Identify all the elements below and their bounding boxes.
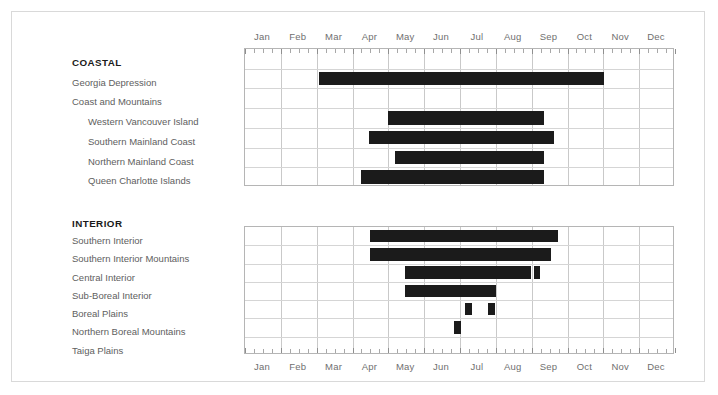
month-axis-top: JanFebMarAprMayJunJulAugSepOctNovDec bbox=[244, 31, 674, 45]
axis-tick bbox=[478, 49, 479, 53]
axis-tick bbox=[523, 49, 524, 53]
axis-tick bbox=[460, 49, 461, 54]
gantt-bar bbox=[319, 72, 604, 85]
axis-tick bbox=[281, 348, 282, 353]
month-label-bottom-dec: Dec bbox=[638, 361, 674, 372]
axis-tick bbox=[326, 49, 327, 53]
month-label-top-jul: Jul bbox=[459, 31, 495, 42]
axis-tick bbox=[442, 49, 443, 53]
axis-tick bbox=[263, 49, 264, 53]
grid-hline bbox=[245, 264, 673, 265]
axis-tick bbox=[612, 349, 613, 353]
interior-label-northern-boreal-mountains: Northern Boreal Mountains bbox=[72, 326, 186, 338]
axis-tick bbox=[361, 349, 362, 353]
axis-tick bbox=[424, 49, 425, 54]
month-label-top-aug: Aug bbox=[495, 31, 531, 42]
axis-tick bbox=[576, 49, 577, 53]
gantt-bar bbox=[405, 266, 531, 278]
axis-tick bbox=[657, 49, 658, 53]
interior-label-taiga-plains: Taiga Plains bbox=[72, 345, 123, 357]
axis-tick bbox=[532, 348, 533, 353]
month-label-bottom-jul: Jul bbox=[459, 361, 495, 372]
axis-tick bbox=[424, 348, 425, 353]
axis-tick bbox=[523, 349, 524, 353]
axis-tick bbox=[433, 349, 434, 353]
axis-tick bbox=[335, 49, 336, 53]
month-label-bottom-oct: Oct bbox=[567, 361, 603, 372]
gantt-bar bbox=[370, 248, 551, 260]
axis-tick bbox=[326, 349, 327, 353]
axis-tick bbox=[353, 49, 354, 54]
axis-tick bbox=[541, 49, 542, 53]
gantt-bar bbox=[361, 170, 544, 183]
gantt-bar bbox=[405, 285, 496, 297]
month-label-bottom-mar: Mar bbox=[316, 361, 352, 372]
month-label-bottom-may: May bbox=[387, 361, 423, 372]
axis-tick bbox=[630, 349, 631, 353]
month-label-top-mar: Mar bbox=[316, 31, 352, 42]
axis-tick bbox=[496, 348, 497, 353]
axis-tick bbox=[272, 349, 273, 353]
axis-tick bbox=[487, 49, 488, 53]
grid-hline bbox=[245, 148, 673, 149]
grid-hline bbox=[245, 88, 673, 89]
axis-tick bbox=[496, 49, 497, 54]
axis-tick bbox=[648, 349, 649, 353]
gantt-bar bbox=[388, 111, 544, 124]
axis-tick bbox=[361, 49, 362, 53]
gantt-bar bbox=[395, 151, 544, 164]
axis-tick bbox=[254, 349, 255, 353]
axis-tick bbox=[379, 49, 380, 53]
grid-hline bbox=[245, 108, 673, 109]
axis-tick bbox=[317, 348, 318, 353]
axis-tick bbox=[415, 49, 416, 53]
coastal-label-coastal: COASTAL bbox=[72, 57, 122, 69]
interior-label-sub-boreal-interior: Sub-Boreal Interior bbox=[72, 290, 152, 302]
gantt-bar bbox=[370, 230, 558, 242]
grid-hline bbox=[245, 128, 673, 129]
axis-tick bbox=[594, 49, 595, 53]
coastal-chart-grid bbox=[244, 48, 674, 186]
axis-tick bbox=[487, 349, 488, 353]
axis-tick bbox=[505, 349, 506, 353]
month-label-top-jun: Jun bbox=[423, 31, 459, 42]
month-label-top-oct: Oct bbox=[567, 31, 603, 42]
axis-tick bbox=[254, 49, 255, 53]
month-label-bottom-aug: Aug bbox=[495, 361, 531, 372]
grid-hline bbox=[245, 337, 673, 338]
axis-tick bbox=[657, 349, 658, 353]
grid-hline bbox=[245, 300, 673, 301]
axis-tick bbox=[451, 349, 452, 353]
gantt-bar bbox=[534, 266, 540, 278]
month-label-top-sep: Sep bbox=[531, 31, 567, 42]
axis-tick bbox=[585, 349, 586, 353]
axis-tick bbox=[290, 349, 291, 353]
axis-tick bbox=[353, 348, 354, 353]
axis-tick bbox=[317, 49, 318, 54]
axis-tick bbox=[612, 49, 613, 53]
coastal-label-western-vancouver-island: Western Vancouver Island bbox=[72, 116, 199, 128]
axis-tick bbox=[388, 49, 389, 54]
axis-tick bbox=[514, 49, 515, 53]
month-axis-bottom: JanFebMarAprMayJunJulAugSepOctNovDec bbox=[244, 361, 674, 375]
axis-tick bbox=[245, 49, 246, 54]
axis-tick bbox=[308, 349, 309, 353]
axis-tick bbox=[370, 49, 371, 53]
month-label-bottom-jan: Jan bbox=[244, 361, 280, 372]
axis-tick bbox=[621, 49, 622, 53]
gantt-bar bbox=[465, 303, 472, 315]
axis-tick bbox=[245, 348, 246, 353]
axis-tick bbox=[379, 349, 380, 353]
figure-page: JanFebMarAprMayJunJulAugSepOctNovDec COA… bbox=[0, 0, 718, 395]
axis-ticks bbox=[245, 348, 673, 353]
month-label-top-feb: Feb bbox=[280, 31, 316, 42]
axis-tick bbox=[603, 348, 604, 353]
axis-tick bbox=[630, 49, 631, 53]
axis-tick bbox=[370, 349, 371, 353]
month-label-bottom-apr: Apr bbox=[352, 361, 388, 372]
axis-ticks bbox=[245, 49, 673, 54]
figure-frame: JanFebMarAprMayJunJulAugSepOctNovDec COA… bbox=[11, 11, 705, 382]
gantt-bar bbox=[488, 303, 495, 315]
interior-section-title: INTERIOR bbox=[72, 218, 122, 230]
axis-tick bbox=[433, 49, 434, 53]
